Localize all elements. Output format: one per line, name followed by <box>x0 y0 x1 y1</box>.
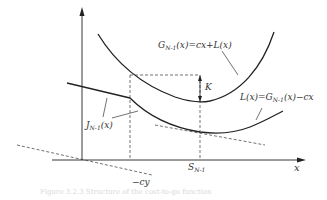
label-minus-cy: −cy <box>132 178 150 187</box>
leader-J-1 <box>103 98 107 117</box>
label-L-sub: N-1 <box>273 96 284 103</box>
curve-J-linear <box>67 83 130 98</box>
axes <box>52 7 306 163</box>
leader-L <box>256 108 262 120</box>
label-J-sub: N-1 <box>90 124 101 131</box>
label-L: L(x)=GN-1(x)−cx <box>240 93 314 103</box>
label-J: JN-1(x) <box>86 121 113 131</box>
figure-caption: Figure 3.2.3 Structure of the cost-to-go… <box>40 188 212 196</box>
arrow-down-icon <box>198 96 202 102</box>
label-J-rest: (x) <box>101 120 113 130</box>
label-L-main: L(x)=G <box>240 92 273 102</box>
leader-lines <box>103 51 262 120</box>
curve-L <box>130 98 283 133</box>
label-G-rest: (x)=cx+L(x) <box>176 40 231 50</box>
label-x-axis: x <box>294 163 300 173</box>
arrow-up-icon <box>198 75 202 81</box>
label-G: GN-1(x)=cx+L(x) <box>158 41 232 51</box>
label-K: K <box>205 83 212 92</box>
label-S: SN-1 <box>188 163 205 173</box>
leader-J-2 <box>112 111 138 118</box>
label-G-sub: N-1 <box>165 44 176 51</box>
label-S-sub: N-1 <box>194 166 205 173</box>
y-axis-arrow-icon <box>80 7 85 16</box>
label-L-rest: (x)−cx <box>284 92 314 102</box>
k-arrow <box>198 75 202 102</box>
leader-G <box>222 51 238 75</box>
